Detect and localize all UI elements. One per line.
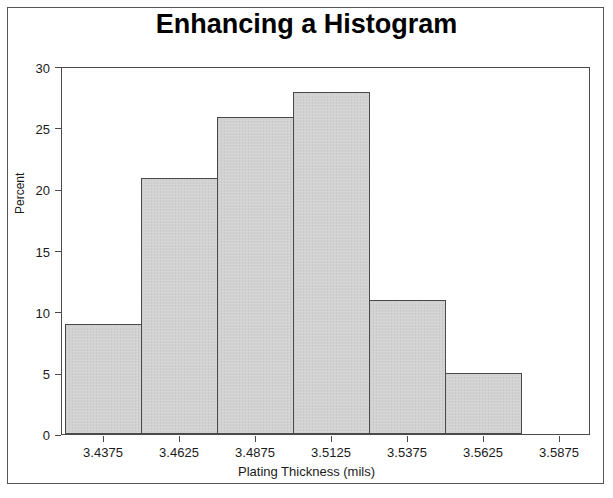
histogram-bar <box>445 373 522 434</box>
histogram-bar <box>141 178 218 434</box>
histogram-bar <box>369 300 446 434</box>
x-tick-mark <box>103 436 104 442</box>
y-tick-label: 10 <box>6 307 50 320</box>
histogram-bar <box>65 324 142 434</box>
y-tick-label: 25 <box>6 123 50 136</box>
x-tick-mark <box>559 436 560 442</box>
y-tick-label: 30 <box>6 62 50 75</box>
x-tick-mark <box>255 436 256 442</box>
y-tick-label: 15 <box>6 246 50 259</box>
histogram-bar <box>293 92 370 434</box>
histogram-screenshot: Enhancing a Histogram Percent 30 25 20 1… <box>0 0 613 498</box>
x-tick-mark <box>331 436 332 442</box>
bars-layer <box>62 68 589 434</box>
y-tick-label: 5 <box>6 368 50 381</box>
x-tick-mark <box>483 436 484 442</box>
plot-area <box>61 67 590 435</box>
x-tick-mark <box>407 436 408 442</box>
page-title: Enhancing a Histogram <box>0 7 613 41</box>
y-tick-mark <box>55 435 61 436</box>
x-tick-label: 3.5875 <box>514 446 604 460</box>
x-axis-title: Plating Thickness (mils) <box>0 464 613 479</box>
y-tick-label: 0 <box>6 429 50 442</box>
histogram-bar <box>217 117 294 434</box>
y-tick-label: 20 <box>6 184 50 197</box>
x-tick-mark <box>179 436 180 442</box>
